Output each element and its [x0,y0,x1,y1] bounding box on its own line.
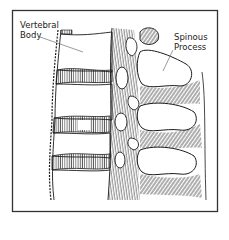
anterior-ligament [49,30,58,200]
label-spinous-process: Spinous Process [174,32,208,52]
label-vertebral-body: Vertebral Body [20,20,59,40]
articular-process [140,28,159,45]
vertebral-body [58,32,112,72]
label-text: Process [174,42,208,52]
intervertebral-foramen [116,67,128,89]
supraspinous-ligament [202,72,206,200]
label-text: Body [20,30,59,40]
label-text: Vertebral [20,20,59,30]
intervertebral-disc [56,69,112,84]
label-text: Spinous [174,32,208,42]
intervertebral-disc [52,154,110,170]
spinous-process [137,147,196,175]
spinous-process [137,103,196,131]
